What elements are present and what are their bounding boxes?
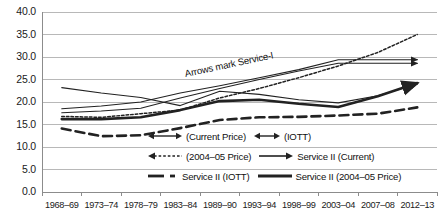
x-axis-tick-label: 2003–04 (319, 200, 359, 210)
y-axis-tick-label: 25.0 (2, 73, 36, 85)
legend-item[interactable]: Service II (Current) (259, 150, 374, 162)
x-axis-tick-label: 1973–74 (82, 200, 122, 210)
legend-row: (Current Price)(IOTT) (148, 126, 438, 146)
y-axis-tick-label: 30.0 (2, 50, 36, 62)
line-chart: 0.05.010.015.020.025.030.035.040.0 1968–… (0, 0, 444, 223)
x-axis-tick-label: 1978–79 (121, 200, 161, 210)
x-tick-marks (42, 192, 437, 196)
legend-item[interactable]: (Current Price) (148, 130, 246, 142)
legend-marker-solid-thick (258, 170, 292, 182)
legend-marker-dash-dot (148, 170, 178, 182)
y-axis-tick-label: 10.0 (2, 140, 36, 152)
x-axis-tick-label: 1968–69 (42, 200, 82, 210)
x-axis-tick-label: 2012–13 (398, 200, 438, 210)
legend-row: (2004–05 Price)Service II (Current) (148, 146, 438, 166)
legend-item-label: Service II (IOTT) (182, 171, 250, 182)
legend-marker-line-arrow (259, 150, 293, 162)
legend-item[interactable]: Service II (2004–05 Price) (258, 170, 402, 182)
x-axis-tick-label: 2007–08 (358, 200, 398, 210)
legend: (Current Price)(IOTT)(2004–05 Price)Serv… (148, 126, 438, 186)
y-axis-tick-label: 35.0 (2, 28, 36, 40)
x-axis-tick-label: 1989–90 (200, 200, 240, 210)
legend-item[interactable]: Service II (IOTT) (148, 170, 250, 182)
y-axis-tick-label: 15.0 (2, 118, 36, 130)
x-axis-tick-label: 1993–94 (240, 200, 280, 210)
legend-item-label: Service II (2004–05 Price) (296, 171, 402, 182)
x-axis-tick-label: 1998–99 (279, 200, 319, 210)
legend-item-label: (IOTT) (284, 131, 311, 142)
legend-marker-double-arrow (148, 130, 182, 142)
legend-row: Service II (IOTT)Service II (2004–05 Pri… (148, 166, 438, 186)
legend-item[interactable]: (2004–05 Price) (148, 150, 251, 162)
legend-marker-left-arrow-dotted (148, 150, 182, 162)
legend-marker-short-double-arrow (254, 130, 280, 142)
legend-item-label: Service II (Current) (297, 151, 374, 162)
y-axis-tick-label: 5.0 (2, 163, 36, 175)
y-axis-tick-label: 20.0 (2, 95, 36, 107)
series-lines (62, 35, 418, 137)
x-axis-tick-label: 1983–84 (161, 200, 201, 210)
series-line (62, 83, 418, 119)
legend-item-label: (2004–05 Price) (186, 151, 251, 162)
series-line (62, 63, 418, 113)
legend-item[interactable]: (IOTT) (254, 130, 311, 142)
legend-item-label: (Current Price) (186, 131, 246, 142)
y-axis-tick-label: 0.0 (2, 185, 36, 197)
y-axis-tick-label: 40.0 (2, 5, 36, 17)
plot-area (0, 0, 444, 223)
